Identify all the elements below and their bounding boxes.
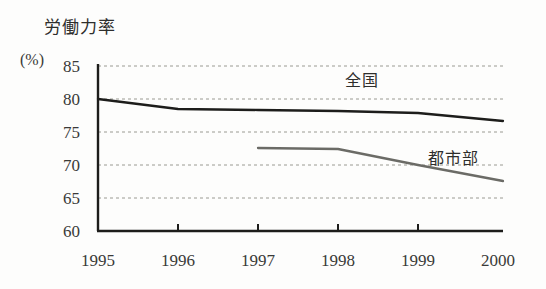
series-label-national: 全国 xyxy=(345,67,379,91)
labor-force-rate-chart: 労働力率 (%) 85 80 75 70 65 60 1995 1996 199… xyxy=(0,0,546,289)
series-label-urban: 都市部 xyxy=(428,145,479,169)
gridlines xyxy=(98,66,503,198)
series-line-national xyxy=(98,99,503,121)
